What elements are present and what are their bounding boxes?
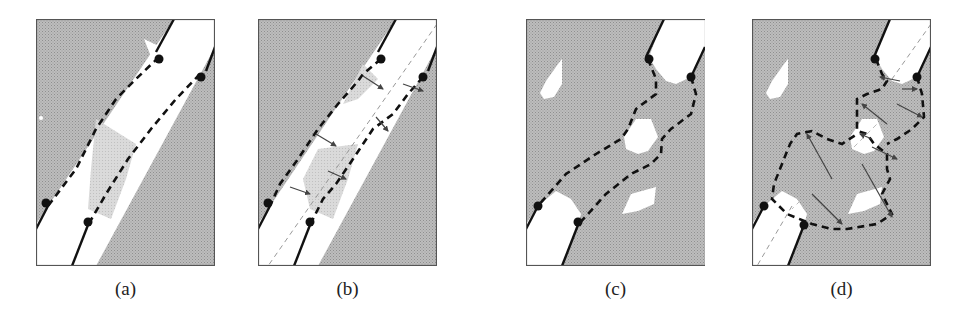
anchor-dot [42,199,51,208]
panel-b-figure [258,19,437,266]
anchor-dot [197,73,206,82]
caption-b: (b) [258,278,437,300]
panel-b [258,19,437,266]
anchor-dot [155,55,164,64]
panel-c-figure [526,19,705,266]
caption-d: (d) [752,278,931,300]
anchor-dot [84,218,93,227]
caption-c: (c) [526,278,705,300]
panel-d-figure [752,19,931,266]
panel-c [526,19,705,266]
panel-a [36,19,215,266]
panel-a-figure [36,19,215,266]
panel-d [752,19,931,266]
caption-a: (a) [36,278,215,300]
